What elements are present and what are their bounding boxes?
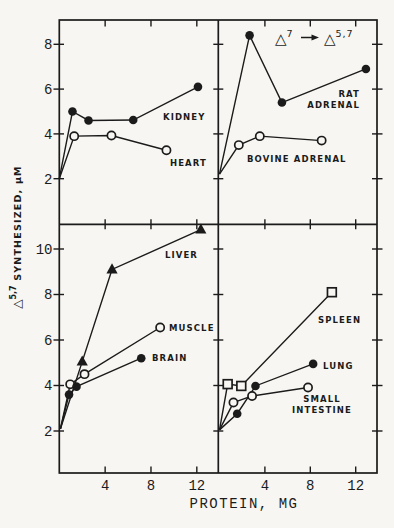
x-tick-label: 4 (101, 478, 109, 494)
filled-circle-marker (194, 83, 203, 92)
open-square-marker (327, 288, 336, 297)
x-tick-label: 8 (147, 478, 155, 494)
y-tick-label: 8 (44, 37, 52, 53)
x-axis-label: PROTEIN, MG (190, 496, 299, 512)
series-label-rat-adrenal: RAT (338, 89, 360, 99)
series-label-liver: LIVER (165, 250, 198, 260)
series-label-bovine-adrenal: BOVINE ADRENAL (247, 154, 347, 164)
series-label-spleen: SPLEEN (318, 315, 361, 325)
x-tick-label: 12 (347, 478, 364, 494)
filled-circle-marker (65, 390, 74, 399)
filled-circle-marker (84, 116, 93, 125)
y-tick-label: 8 (44, 287, 52, 303)
series-label-kidney: KIDNEY (163, 112, 205, 122)
open-circle-marker (248, 392, 256, 400)
series-label-rat-adrenal: ADRENAL (307, 100, 360, 110)
y-tick-label: 10 (36, 242, 53, 258)
y-tick-label: 6 (44, 333, 52, 349)
figure: 481248122468246810KIDNEYHEARTRATADRENALB… (0, 0, 394, 528)
series-label-lung: LUNG (323, 361, 354, 371)
filled-circle-marker (362, 65, 371, 74)
open-circle-marker (70, 132, 78, 140)
open-circle-marker (318, 137, 326, 145)
y-tick-label: 4 (44, 127, 52, 143)
x-tick-label: 8 (306, 478, 314, 494)
x-tick-label: 4 (261, 478, 269, 494)
filled-circle-marker (245, 31, 254, 40)
filled-circle-marker (137, 354, 146, 363)
y-tick-label: 2 (44, 424, 52, 440)
filled-circle-marker (72, 382, 81, 391)
open-square-marker (237, 382, 246, 391)
y-tick-label: 4 (44, 378, 52, 394)
open-square-marker (223, 380, 232, 389)
open-circle-marker (107, 131, 115, 139)
series-label-brain: BRAIN (152, 353, 187, 363)
filled-circle-marker (278, 98, 287, 107)
open-circle-marker (304, 383, 312, 391)
filled-circle-marker (251, 382, 260, 391)
filled-circle-marker (129, 116, 138, 125)
four-panel-line-chart: 481248122468246810KIDNEYHEARTRATADRENALB… (0, 0, 394, 528)
filled-circle-marker (309, 360, 318, 369)
series-label-heart: HEART (170, 158, 207, 168)
filled-circle-marker (233, 409, 242, 418)
open-circle-marker (256, 132, 264, 140)
series-label-small-intestine: INTESTINE (292, 405, 352, 415)
open-circle-marker (229, 398, 237, 406)
x-tick-label: 12 (188, 478, 205, 494)
open-circle-marker (235, 141, 243, 149)
open-circle-marker (156, 323, 164, 331)
open-circle-marker (80, 370, 88, 378)
filled-circle-marker (68, 107, 77, 116)
y-tick-label: 6 (44, 82, 52, 98)
series-label-small-intestine: SMALL (303, 394, 341, 404)
open-circle-marker (162, 146, 170, 154)
y-tick-label: 2 (44, 172, 52, 188)
series-label-muscle: MUSCLE (169, 323, 215, 333)
